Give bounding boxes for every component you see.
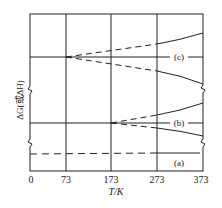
curve-a	[30, 153, 200, 154]
x-tick-373: 373	[194, 174, 209, 185]
curve-a-label: (a)	[174, 158, 184, 168]
axis-break-left-lower	[27, 139, 33, 147]
y-axis-label: ΔG(或ΔH)	[14, 80, 25, 120]
curve-c-label: (c)	[174, 52, 184, 62]
x-tick-0: 0	[29, 174, 34, 185]
x-tick-73: 73	[61, 174, 71, 185]
axis-break-right-upper	[200, 85, 206, 93]
axis-break-right-lower	[200, 139, 206, 147]
x-tick-273: 273	[150, 174, 165, 185]
chart: (c) (b) (a) 0 73 173 273 373 T/K ΔG(或ΔH)	[0, 0, 222, 208]
x-tick-173: 173	[104, 174, 119, 185]
x-axis-label: T/K	[108, 186, 124, 197]
curve-b-label: (b)	[174, 118, 185, 128]
axis-break-left-upper	[27, 86, 33, 94]
plot-frame	[30, 14, 203, 171]
